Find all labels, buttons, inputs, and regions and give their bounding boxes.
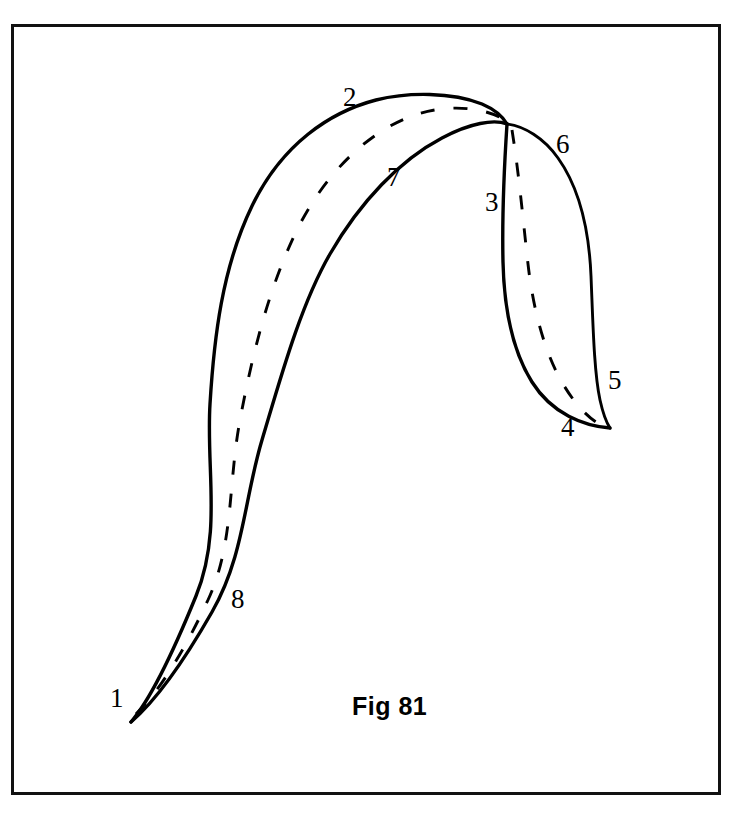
callout-label-4-text: 4 — [561, 412, 575, 442]
callout-label-6-text: 6 — [556, 129, 570, 159]
callout-label-5-text: 5 — [608, 365, 622, 395]
callout-label-7: 7 — [387, 164, 401, 191]
short-band-centre-dashed-line — [512, 130, 609, 428]
callout-label-3: 3 — [485, 189, 499, 216]
callout-label-5: 5 — [608, 367, 622, 394]
callout-label-1: 1 — [110, 685, 124, 712]
long-band-inner-edge — [131, 122, 507, 722]
long-band-centre-dashed-line — [136, 108, 505, 714]
callout-label-2: 2 — [343, 84, 357, 111]
callout-label-8: 8 — [231, 586, 245, 613]
callout-label-1-text: 1 — [110, 683, 124, 713]
figure-page: 1 2 3 4 5 6 7 8 Fig 81 — [0, 0, 730, 817]
callout-label-4: 4 — [561, 414, 575, 441]
callout-label-6: 6 — [556, 131, 570, 158]
long-band-outer-edge — [131, 94, 507, 722]
callout-label-2-text: 2 — [343, 82, 357, 112]
callout-label-8-text: 8 — [231, 584, 245, 614]
short-band-outer-edge — [507, 124, 610, 428]
callout-label-3-text: 3 — [485, 187, 499, 217]
callout-label-7-text: 7 — [387, 162, 401, 192]
figure-caption: Fig 81 — [352, 692, 427, 721]
